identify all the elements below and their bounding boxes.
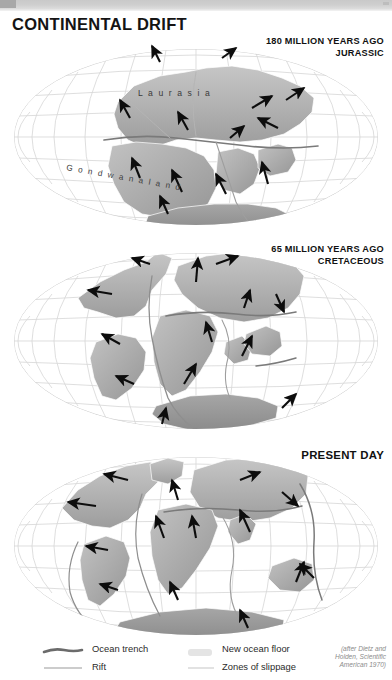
legend-label-zones-of-slippage: Zones of slippage (222, 661, 296, 672)
legend-swatch-ocean-trench (42, 646, 84, 656)
landmass-antarctica (116, 608, 284, 642)
landmass-laurasia (114, 66, 314, 146)
credit-line-3: American 1970) (314, 661, 386, 669)
globe-panel-jurassic: L a u r a s i a G o n d w a n a l a n d (0, 42, 392, 232)
legend-label-new-ocean-floor: New ocean floor (222, 643, 290, 654)
landmasses-cretaceous (78, 252, 304, 432)
scan-edge-nub-left (0, 0, 16, 8)
label-laurasia: L a u r a s i a (138, 88, 211, 98)
landmass-africa (150, 504, 218, 594)
credit-line-2: Holden, Scientific (314, 653, 386, 661)
credit-line-1: (after Dietz and (314, 645, 386, 653)
landmasses-present-day (62, 458, 322, 642)
scan-edge-nub-right (383, 2, 389, 5)
globe-panel-present-day (0, 450, 392, 642)
source-credit: (after Dietz and Holden, Scientific Amer… (314, 645, 386, 670)
page-title: CONTINENTAL DRIFT (12, 15, 187, 34)
legend-label-ocean-trench: Ocean trench (92, 643, 148, 654)
landmass-north-america (62, 462, 164, 528)
continental-drift-figure: CONTINENTAL DRIFT 180 MILLION YEARS AGO … (0, 0, 392, 680)
legend-label-rift: Rift (92, 661, 106, 672)
legend-swatch-new-ocean-floor (188, 649, 212, 656)
scan-edge-band (0, 0, 392, 11)
landmass-greenland (150, 458, 184, 484)
legend-swatch-zones-of-slippage (186, 664, 216, 672)
landmass-australia (268, 558, 314, 592)
legend-swatch-rift (42, 664, 84, 672)
landmass-north-america (78, 252, 172, 318)
landmass-antarctica (152, 394, 278, 432)
globe-panel-cretaceous (0, 246, 392, 436)
